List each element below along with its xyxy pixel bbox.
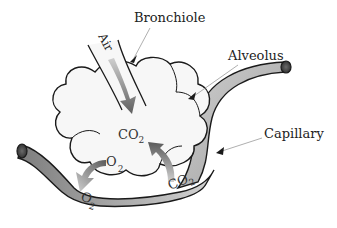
alveolus-label: Alveolus	[227, 48, 284, 63]
bronchiole-pointer-arrow-icon	[130, 55, 137, 63]
alveolus-gas-exchange-diagram: Air CO2 O2 O2 CO2 Bronchiole Alveolus Ca…	[0, 0, 337, 228]
bronchiole-label: Bronchiole	[134, 10, 206, 25]
bronchiole-callout: Bronchiole	[130, 10, 206, 63]
capillary-callout: Capillary	[216, 126, 324, 155]
o2-diffusion-arrow	[76, 160, 106, 192]
capillary-label: Capillary	[264, 126, 324, 141]
capillary-pointer-arrow-icon	[216, 147, 224, 155]
capillary-opening-left	[17, 144, 27, 158]
